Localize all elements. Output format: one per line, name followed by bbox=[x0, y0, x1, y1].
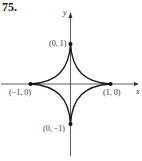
point-1-0 bbox=[109, 82, 113, 86]
y-axis-label: y bbox=[62, 8, 67, 17]
point-0-1 bbox=[69, 42, 73, 46]
point-neg1-0 bbox=[29, 82, 33, 86]
label-point-1-0: (1, 0) bbox=[103, 88, 121, 97]
x-axis-arrow-icon bbox=[134, 82, 139, 86]
y-axis-arrow-icon bbox=[69, 12, 73, 18]
label-point-neg1-0: (−1, 0) bbox=[9, 88, 31, 97]
astroid-diagram: y x (0, 1) (−1, 0) (1, 0) (0, −1) bbox=[0, 0, 142, 161]
label-point-0-1: (0, 1) bbox=[49, 39, 67, 48]
x-axis-label: x bbox=[135, 87, 140, 96]
point-0-neg1 bbox=[69, 122, 73, 126]
label-point-0-neg1: (0, −1) bbox=[43, 124, 65, 133]
